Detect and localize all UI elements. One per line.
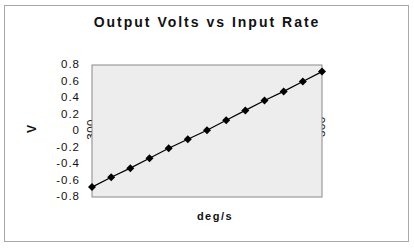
plot-area xyxy=(0,0,414,251)
